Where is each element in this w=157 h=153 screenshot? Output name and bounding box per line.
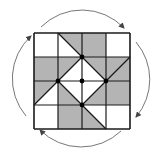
rotation-tile-diagram bbox=[0, 0, 157, 153]
vertex-dot bbox=[80, 79, 85, 84]
arrow-bottom-icon bbox=[40, 130, 121, 147]
shaded-region bbox=[58, 105, 82, 129]
vertex-dot bbox=[56, 79, 61, 84]
arrow-left-icon bbox=[12, 36, 31, 116]
vertex-dot bbox=[104, 79, 109, 84]
shaded-region bbox=[34, 57, 58, 81]
vertex-dot bbox=[80, 55, 85, 60]
shaded-region bbox=[82, 33, 106, 57]
arrow-top-icon bbox=[41, 10, 124, 28]
arrow-right-icon bbox=[136, 42, 150, 117]
vertex-dot bbox=[80, 103, 85, 108]
